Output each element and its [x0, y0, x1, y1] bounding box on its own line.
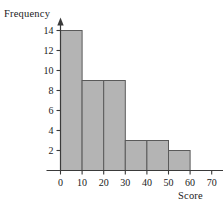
x-axis-tick-label: 70	[207, 177, 217, 188]
y-axis-tick-label: 10	[44, 65, 54, 76]
histogram-bar	[82, 81, 104, 171]
histogram-bar	[147, 141, 169, 171]
bars-group	[61, 31, 191, 171]
y-axis-ticks-group: 2468101214	[44, 25, 61, 156]
y-axis-tick-label: 8	[49, 85, 54, 96]
y-axis-tick-label: 6	[49, 105, 54, 116]
x-axis-ticks-group: 010203040506070	[58, 171, 217, 188]
x-axis-tick-label: 30	[120, 177, 130, 188]
y-axis-arrowhead-icon	[57, 18, 63, 26]
chart-plot-area: 2468101214 010203040506070	[0, 0, 223, 208]
y-axis-tick-label: 12	[44, 45, 54, 56]
x-axis-tick-label: 40	[142, 177, 152, 188]
y-axis-tick-label: 14	[44, 25, 54, 36]
x-axis-tick-label: 60	[185, 177, 195, 188]
y-axis-tick-label: 2	[49, 145, 54, 156]
histogram-bar	[169, 151, 191, 171]
x-axis-tick-label: 20	[99, 177, 109, 188]
x-axis-tick-label: 0	[58, 177, 63, 188]
y-axis-tick-label: 4	[49, 125, 54, 136]
histogram-bar	[125, 141, 147, 171]
x-axis-tick-label: 10	[77, 177, 87, 188]
histogram-bar	[104, 81, 126, 171]
x-axis-tick-label: 50	[164, 177, 174, 188]
histogram-chart: Frequency Score 2468101214 0102030405060…	[0, 0, 223, 208]
histogram-bar	[61, 31, 83, 171]
